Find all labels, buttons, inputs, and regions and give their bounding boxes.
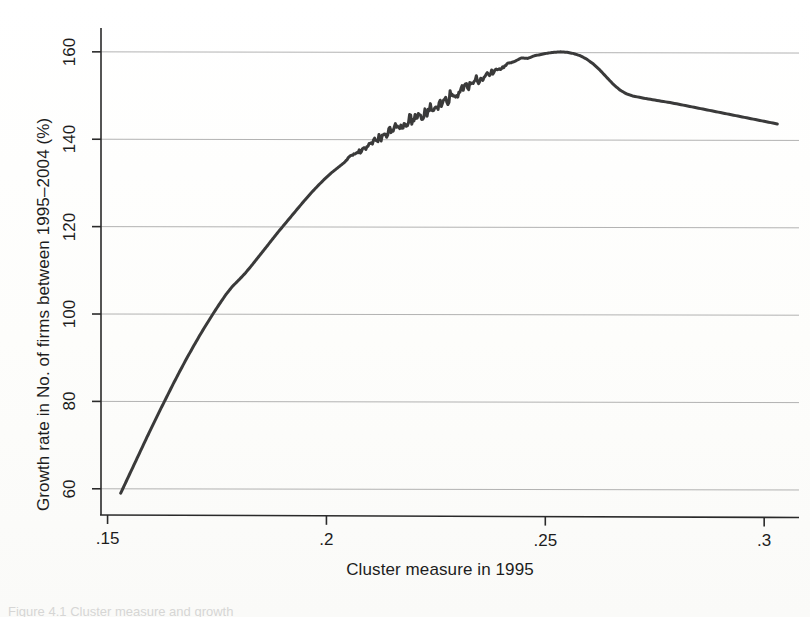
gridline-y-120 <box>101 227 799 228</box>
x-tick-label-.15: .15 <box>78 529 138 549</box>
figure-container: Growth rate in No. of firms between 1995… <box>0 0 810 617</box>
gridline-y-140 <box>101 139 799 140</box>
y-tick-label-160: 160 <box>60 30 80 74</box>
tick-marks-group <box>92 52 764 527</box>
x-tick-label-.3: .3 <box>734 531 794 551</box>
y-tick-label-80: 80 <box>60 379 80 423</box>
y-tick-label-60: 60 <box>60 467 80 511</box>
y-tick-label-100: 100 <box>60 292 80 336</box>
x-axis-title: Cluster measure in 1995 <box>0 560 810 580</box>
x-tick-label-.2: .2 <box>296 530 356 550</box>
x-axis-spine <box>100 515 799 518</box>
gridline-y-80 <box>101 401 799 402</box>
x-tick-label-.25: .25 <box>515 531 575 551</box>
gridline-y-60 <box>101 489 799 490</box>
y-axis-title: Growth rate in No. of firms between 1995… <box>34 118 54 511</box>
y-tick-label-140: 140 <box>60 117 80 161</box>
chart-plot-area <box>0 0 810 617</box>
data-series-line <box>121 52 778 493</box>
y-tick-label-120: 120 <box>60 205 80 249</box>
figure-caption: Figure 4.1 Cluster measure and growth <box>8 604 788 617</box>
gridlines-group <box>101 52 799 490</box>
gridline-y-100 <box>101 314 799 315</box>
gridline-y-160 <box>101 52 799 53</box>
